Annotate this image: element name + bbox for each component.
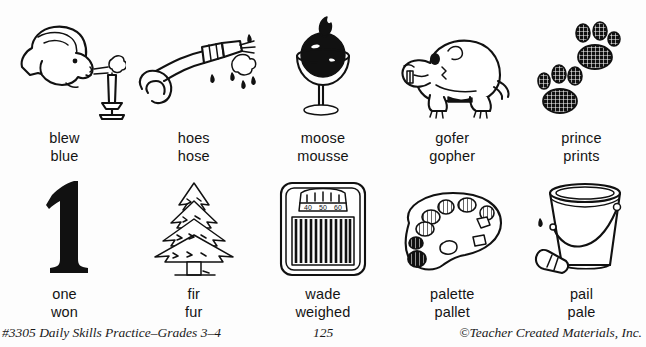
- word-pair-cell-palette-pallet: palette pallet: [388, 177, 517, 322]
- word-label: one: [51, 285, 78, 304]
- word-pair-labels: hoes hose: [178, 129, 210, 166]
- word-pair-cell-moose-mousse: moose mousse: [259, 11, 388, 166]
- word-label: prints: [561, 147, 601, 166]
- word-label: pale: [567, 303, 595, 322]
- pail-bucket-icon: [517, 177, 646, 279]
- word-label: hose: [178, 147, 210, 166]
- word-pair-cell-blew-blue: blew blue: [0, 11, 129, 166]
- word-label: pallet: [430, 303, 475, 322]
- word-pair-cell-prince-prints: prince prints: [517, 11, 646, 166]
- word-label: fur: [185, 303, 202, 322]
- word-label: gopher: [429, 147, 475, 166]
- word-pair-labels: prince prints: [561, 129, 601, 166]
- word-label: blew: [49, 129, 79, 148]
- svg-text:50: 50: [319, 204, 327, 211]
- word-pair-labels: pail pale: [567, 285, 595, 322]
- word-pair-cell-hoes-hose: hoes hose: [129, 11, 258, 166]
- word-pair-labels: fir fur: [185, 285, 202, 322]
- word-label: won: [51, 303, 78, 322]
- bathroom-scale-icon: 40 50 60: [259, 177, 388, 279]
- word-label: mousse: [297, 147, 349, 166]
- word-pair-cell-gofer-gopher: gofer gopher: [388, 11, 517, 166]
- word-pair-labels: wade weighed: [295, 285, 350, 322]
- word-label: pail: [567, 285, 595, 304]
- worksheet-row-1: blew blue: [0, 6, 646, 166]
- word-label: hoes: [178, 129, 210, 148]
- artist-palette-icon: [388, 177, 517, 279]
- paw-prints-icon: [517, 11, 646, 123]
- gopher-icon: [388, 11, 517, 123]
- word-pair-labels: blew blue: [49, 129, 79, 166]
- word-pair-labels: palette pallet: [430, 285, 475, 322]
- word-label: moose: [297, 129, 349, 148]
- worksheet-page: blew blue: [0, 0, 646, 347]
- word-label: fir: [185, 285, 202, 304]
- word-pair-cell-fir-fur: fir fur: [129, 177, 258, 322]
- person-blowing-candle-icon: [0, 11, 129, 123]
- word-label: wade: [295, 285, 350, 304]
- word-pair-cell-wade-weighed: 40 50 60 wade weighed: [259, 177, 388, 322]
- page-footer: #3305 Daily Skills Practice–Grades 3–4 1…: [0, 322, 646, 347]
- svg-text:60: 60: [334, 204, 342, 211]
- word-pair-cell-one-won: one won: [0, 177, 129, 322]
- word-label: blue: [49, 147, 79, 166]
- worksheet-row-2: one won: [0, 172, 646, 322]
- numeral-one-icon: [0, 177, 129, 279]
- word-label: palette: [430, 285, 475, 304]
- word-pair-cell-pail-pale: pail pale: [517, 177, 646, 322]
- word-label: prince: [561, 129, 601, 148]
- svg-text:40: 40: [304, 204, 312, 211]
- word-pair-labels: gofer gopher: [429, 129, 475, 166]
- fir-tree-icon: [129, 177, 258, 279]
- word-label: weighed: [295, 303, 350, 322]
- footer-copyright: ©Teacher Created Materials, Inc.: [459, 325, 642, 341]
- dessert-mousse-glass-icon: [259, 11, 388, 123]
- word-pair-labels: one won: [51, 285, 78, 322]
- garden-hose-spraying-icon: [129, 11, 258, 123]
- word-label: gofer: [429, 129, 475, 148]
- word-pair-labels: moose mousse: [297, 129, 349, 166]
